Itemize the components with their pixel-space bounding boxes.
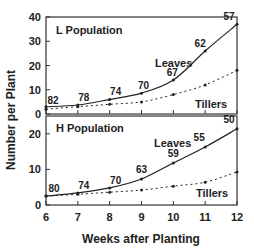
percent-annotation: 70 <box>138 80 150 91</box>
data-point <box>236 170 239 173</box>
data-point <box>172 161 175 164</box>
x-tick-label: 8 <box>107 211 113 223</box>
data-point <box>76 105 79 108</box>
percent-annotation: 80 <box>48 183 60 194</box>
percent-annotation: 82 <box>47 95 59 106</box>
percent-annotation: 74 <box>110 86 122 97</box>
top-panel-l-population: 010203040L Population82787470676257Leave… <box>29 11 239 120</box>
data-point <box>76 193 79 196</box>
y-tick-label: 30 <box>29 35 41 47</box>
data-point <box>140 92 143 95</box>
y-tick-label: 20 <box>29 60 41 72</box>
percent-annotation: 63 <box>136 164 148 175</box>
data-point <box>236 23 239 26</box>
series-leaves-line <box>46 129 237 196</box>
y-tick-label: 40 <box>29 11 41 23</box>
panel-title: L Population <box>56 24 123 36</box>
data-point <box>204 49 207 52</box>
data-point <box>172 185 175 188</box>
data-point <box>140 178 143 181</box>
data-point <box>108 191 111 194</box>
data-point <box>172 93 175 96</box>
tillers-label: Tillers <box>196 187 228 199</box>
percent-annotation: 70 <box>110 175 122 186</box>
leaves-label: Leaves <box>155 57 192 69</box>
y-tick-label: 0 <box>35 108 41 120</box>
data-point <box>204 83 207 86</box>
data-point <box>108 103 111 106</box>
data-point <box>45 108 48 111</box>
data-point <box>108 98 111 101</box>
data-point <box>172 79 175 82</box>
data-point <box>236 127 239 130</box>
x-axis-label: Weeks after Planting <box>82 232 200 246</box>
data-point <box>204 181 207 184</box>
panel-title: H Population <box>56 122 124 134</box>
tillers-label: Tillers <box>195 98 227 110</box>
x-tick-label: 11 <box>199 211 211 223</box>
percent-annotation: 50 <box>223 114 235 125</box>
percent-annotation: 62 <box>195 38 207 49</box>
percent-annotation: 78 <box>78 92 90 103</box>
data-point <box>140 189 143 192</box>
x-tick-label: 7 <box>75 211 81 223</box>
y-tick-label: 10 <box>29 84 41 96</box>
y-axis-label: Number per Plant <box>4 70 18 170</box>
x-tick-label: 12 <box>231 211 243 223</box>
percent-annotation: 59 <box>168 148 180 159</box>
bottom-panel-h-population: 01020H Population80747063595550LeavesTil… <box>29 114 243 223</box>
data-point <box>204 145 207 148</box>
percent-annotation: 57 <box>223 11 235 22</box>
data-point <box>140 100 143 103</box>
percent-annotation: 74 <box>78 180 90 191</box>
x-tick-label: 9 <box>138 211 144 223</box>
percent-annotation: 55 <box>194 132 206 143</box>
data-point <box>108 186 111 189</box>
x-tick-label: 6 <box>43 211 49 223</box>
data-point <box>236 69 239 72</box>
y-tick-label: 20 <box>29 128 41 140</box>
y-tick-label: 0 <box>35 199 41 211</box>
y-tick-label: 10 <box>29 163 41 175</box>
x-tick-label: 10 <box>167 211 179 223</box>
chart: 010203040L Population82787470676257Leave… <box>0 0 254 252</box>
data-point <box>45 195 48 198</box>
leaves-label: Leaves <box>154 137 191 149</box>
